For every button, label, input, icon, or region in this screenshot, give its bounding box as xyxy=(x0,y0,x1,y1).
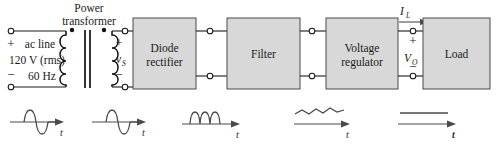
voltage-regulator-label-line1: Voltage xyxy=(345,42,380,55)
voltage-regulator-label-line2: regulator xyxy=(341,56,383,69)
rect-filter-terminal-bottom xyxy=(207,73,213,79)
block-diode-rectifier[interactable]: Diode rectifier xyxy=(133,18,196,89)
secondary-terminal-top xyxy=(122,28,128,34)
filt-reg-terminal-bottom xyxy=(309,73,315,79)
source-label-line1: ac line xyxy=(25,38,55,50)
xfmr-sine-axis-label: t xyxy=(142,127,145,138)
load-current-subscript: L xyxy=(405,11,410,20)
power-transformer-group: Power transformer + v S − xyxy=(60,2,133,90)
ac-source-group: + − ac line 120 V (rms) 60 Hz xyxy=(7,28,66,90)
source-terminal-top xyxy=(8,28,14,34)
output-minus-sign: − xyxy=(409,59,416,74)
output-plus-sign: + xyxy=(409,33,416,48)
source-label-line2: 120 V (rms) xyxy=(9,54,65,67)
block-filter[interactable]: Filter xyxy=(227,18,300,89)
ac-sine-axis-arrowhead xyxy=(55,119,64,126)
filter-label-line1: Filter xyxy=(251,48,276,60)
output-terminal-bottom xyxy=(410,73,416,79)
diode-rectifier-label-line1: Diode xyxy=(150,42,178,54)
source-terminal-bottom xyxy=(8,84,14,90)
dc-axis-label: t xyxy=(452,129,456,140)
power-supply-block-diagram: + − ac line 120 V (rms) 60 Hz Power tran… xyxy=(0,0,501,147)
load-current-symbol: I xyxy=(399,5,405,17)
filt-reg-terminal-top xyxy=(309,28,315,34)
block-voltage-regulator[interactable]: Voltage regulator xyxy=(326,18,398,89)
rect-filter-terminal-top xyxy=(207,28,213,34)
rectified-axis-label: t xyxy=(236,129,239,140)
rectifier-to-filter-wires xyxy=(196,28,227,79)
transformer-label-line2: transformer xyxy=(62,15,116,27)
load-label-line1: Load xyxy=(445,48,469,60)
secondary-minus-sign: − xyxy=(115,67,122,82)
dc-axis-arrowhead xyxy=(447,121,456,128)
ripple-axis-label: t xyxy=(346,129,349,140)
diagram-canvas: + − ac line 120 V (rms) 60 Hz Power tran… xyxy=(0,0,501,147)
ripple-curve xyxy=(295,108,344,114)
transformer-secondary-dot xyxy=(102,28,106,32)
secondary-plus-sign: + xyxy=(115,35,122,50)
waveform-ac-sine: t xyxy=(10,110,64,138)
secondary-terminal-bottom xyxy=(122,84,128,90)
ripple-axis-arrowhead xyxy=(341,121,350,128)
filter-to-regulator-wires xyxy=(300,28,326,79)
ac-sine-axis-label: t xyxy=(60,127,63,138)
source-minus-sign: − xyxy=(7,67,14,82)
rectified-axis-arrowhead xyxy=(231,121,240,128)
source-plus-sign: + xyxy=(7,36,14,51)
transformer-primary-dot xyxy=(70,28,74,32)
source-label-line3: 60 Hz xyxy=(28,70,56,82)
rectified-curve xyxy=(190,112,220,124)
block-load[interactable]: Load xyxy=(423,18,490,89)
transformer-label-line1: Power xyxy=(74,2,104,14)
waveform-filtered-ripple: t xyxy=(294,108,350,140)
waveform-rectified: t xyxy=(182,112,240,140)
waveform-regulated-dc: t xyxy=(398,113,456,140)
diode-rectifier-label-line2: rectifier xyxy=(146,56,183,68)
waveform-transformer-sine: t xyxy=(92,110,146,138)
xfmr-sine-axis-arrowhead xyxy=(137,119,146,126)
